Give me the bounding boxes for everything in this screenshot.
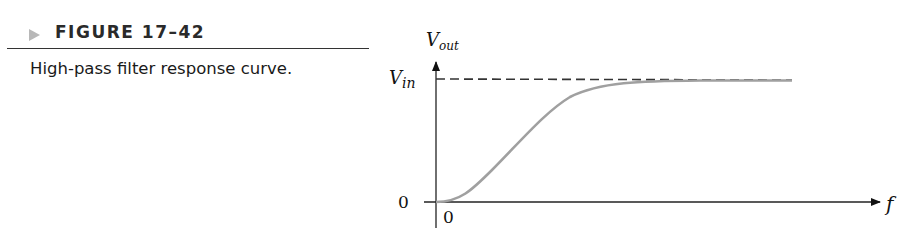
response-chart: Vout Vin 0 0 f [0,0,917,228]
vin-label: Vin [389,67,416,91]
y-axis-label: Vout [426,29,459,53]
y-zero-label: 0 [398,192,409,212]
x-zero-label: 0 [443,207,454,227]
x-axis-label: f [884,192,897,216]
response-curve [436,81,792,203]
